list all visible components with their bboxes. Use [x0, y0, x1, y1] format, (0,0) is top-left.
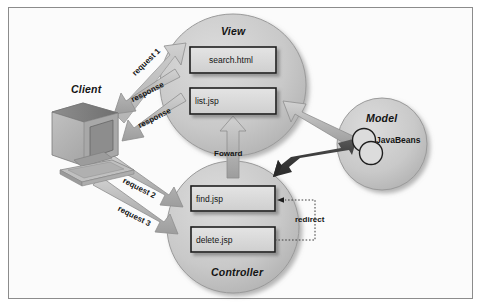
edge-label-foward: Foward	[214, 150, 242, 158]
view-item-list-jsp: list.jsp	[195, 97, 219, 106]
controller-title: Controller	[211, 267, 263, 278]
view-item-search-html: search.html	[209, 56, 253, 65]
controller-item-delete-jsp: delete.jsp	[196, 236, 232, 245]
edge-label-redirect: redirect	[295, 216, 324, 224]
client-title: Client	[71, 84, 101, 95]
model-title: Model	[366, 113, 397, 124]
figure-page: View Model Controller Client search.html…	[0, 0, 482, 308]
controller-item-find-jsp: find.jsp	[196, 195, 223, 204]
view-title: View	[221, 26, 245, 37]
model-item-javabeans: JavaBeans	[376, 136, 420, 145]
